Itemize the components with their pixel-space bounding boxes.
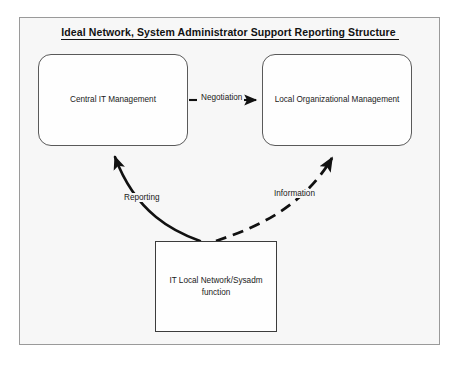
node-central-it-management-label: Central IT Management	[70, 94, 156, 106]
node-it-local-label-line2: function	[202, 288, 231, 297]
node-local-organizational-management-label: Local Organizational Management	[275, 94, 400, 106]
node-local-organizational-management[interactable]: Local Organizational Management	[262, 54, 412, 146]
node-central-it-management[interactable]: Central IT Management	[38, 54, 188, 146]
node-it-local-network-sysadm-label: IT Local Network/Sysadmfunction	[169, 275, 262, 299]
node-it-local-label-line1: IT Local Network/Sysadm	[169, 276, 262, 285]
diagram-title: Ideal Network, System Administrator Supp…	[0, 26, 460, 38]
edge-label-information: Information	[272, 189, 317, 198]
node-it-local-network-sysadm[interactable]: IT Local Network/Sysadmfunction	[155, 241, 277, 332]
diagram-canvas: Ideal Network, System Administrator Supp…	[0, 0, 460, 365]
edge-label-reporting: Reporting	[122, 193, 162, 202]
diagram-title-text: Ideal Network, System Administrator Supp…	[61, 26, 398, 40]
edge-label-negotiation: Negotiation	[199, 93, 244, 102]
